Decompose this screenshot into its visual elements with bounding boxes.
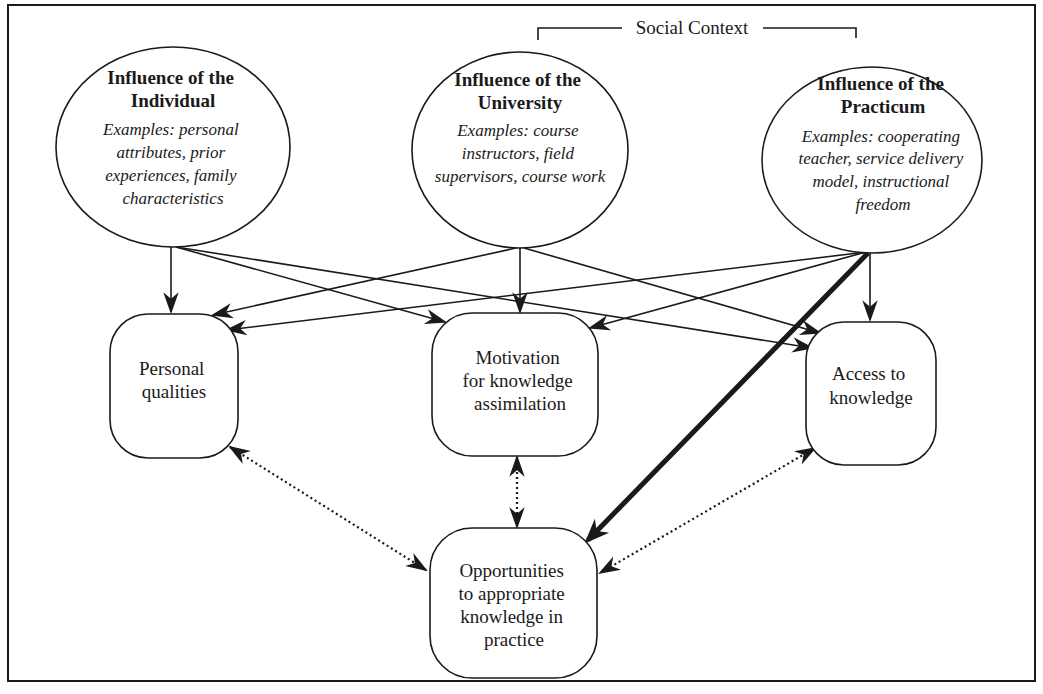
edge-university-personal [213,248,516,315]
edge-personal-opportunities [230,447,426,570]
outcome-access: Access to knowledge [806,322,936,465]
diagram-canvas: Social Context Influence of the Individu… [0,0,1043,694]
outcome-personal-qualities: Personal qualities [110,314,238,458]
edge-individual-motivation [176,247,445,322]
social-context-label: Social Context [636,17,749,38]
influence-university: Influence of the University Examples: co… [412,52,628,248]
influence-practicum: Influence of the Practicum Examples: coo… [762,67,982,253]
edge-access-opportunities [600,448,815,573]
social-context-bracket: Social Context [538,17,856,40]
edge-practicum-motivation [590,252,866,328]
influence-individual: Influence of the Individual Examples: pe… [56,47,290,247]
outcome-motivation-label: Motivation for knowledge assimilation [462,347,577,414]
outcome-opportunities: Opportunities to appropriate knowledge i… [430,528,597,678]
outcome-motivation: Motivation for knowledge assimilation [432,313,598,456]
diagram-svg: Social Context Influence of the Individu… [0,0,1043,694]
